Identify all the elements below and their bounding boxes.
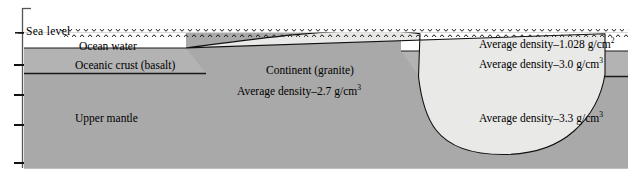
sea-level-wave-line: [60, 29, 628, 37]
ocean-water-label: Ocean water: [79, 40, 137, 52]
sea-level-label: Sea level: [26, 25, 71, 37]
continent-density-label: Average density–2.7 g/cm3: [237, 85, 361, 97]
upper-mantle-label: Upper mantle: [75, 112, 138, 124]
isostasy-diagram: Sea level Ocean water Oceanic crust (bas…: [0, 0, 639, 181]
oceanic-crust-density-text: Average density–3.0 g/cm: [479, 58, 599, 70]
upper-mantle-density-exponent: 3: [599, 110, 603, 119]
ocean-water-density-exponent: 2: [611, 36, 615, 45]
oceanic-crust-density-label: Average density–3.0 g/cm3: [479, 58, 603, 70]
continent-density-exponent: 3: [357, 83, 361, 92]
upper-mantle-density-label: Average density–3.3 g/cm3: [479, 112, 603, 124]
continent-density-text: Average density–2.7 g/cm: [237, 85, 357, 97]
oceanic-crust-label: Oceanic crust (basalt): [75, 59, 175, 71]
upper-mantle-density-text: Average density–3.3 g/cm: [479, 112, 599, 124]
ocean-water-density-text: Average density–1.028 g/cm: [479, 38, 611, 50]
ocean-water-density-label: Average density–1.028 g/cm2: [479, 38, 614, 50]
oceanic-crust-density-exponent: 3: [599, 56, 603, 65]
continent-label: Continent (granite): [266, 64, 354, 76]
